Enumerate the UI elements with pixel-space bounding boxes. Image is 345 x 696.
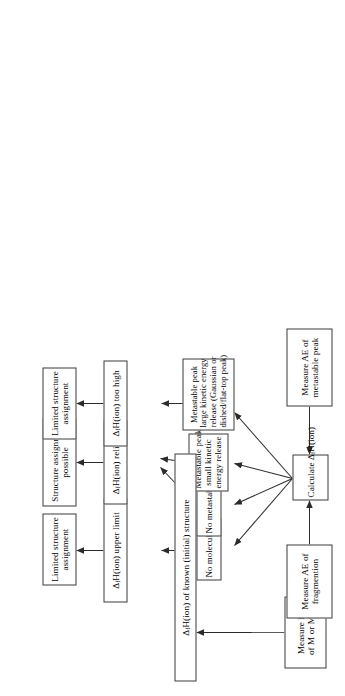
box-limited-assignment-a-line-1: Limited structure: [49, 516, 59, 582]
box-measure-ae-metastable-peak-line-2: metastable peak: [309, 331, 319, 403]
box-limited-assignment-a-line-2: assignment: [59, 516, 69, 582]
box-limited-assignment-b-line-1: Limited structure: [49, 370, 59, 436]
box-metastable-large-ke: Metastable peak large kinetic energy rel…: [182, 358, 234, 430]
box-limited-assignment-b-line-2: assignment: [59, 370, 69, 436]
diagram-rotation-wrapper: Measure IE of M or M+• Measure AE of fra…: [0, 0, 345, 696]
box-metastable-small-ke-line-3: energy release: [213, 436, 223, 488]
box-dfh-upper-limit-line-1: ΔfH(ion) upper limit: [110, 501, 120, 599]
flowchart-canvas: Measure IE of M or M+• Measure AE of fra…: [0, 0, 345, 696]
box-measure-ae-fragmention-line-1: Measure AE of: [299, 547, 309, 615]
box-measure-ae-metastable-peak: Measure AE of metastable peak: [286, 328, 332, 406]
box-known-initial-structure-line-1: ΔfH(ion) of known (initial) structure: [180, 456, 190, 678]
box-measure-ae-fragmention-line-2: fragmention: [309, 547, 319, 615]
box-metastable-large-ke-line-4: dished/flat-top peak): [218, 361, 228, 427]
box-dfh-upper-limit: ΔfH(ion) upper limit: [103, 498, 127, 602]
box-calculate-dfh-ion: Calculate ΔfH(ion): [292, 454, 328, 500]
box-known-initial-structure: ΔfH(ion) of known (initial) structure: [174, 453, 196, 681]
box-metastable-small-ke-line-2: small kinetic: [203, 436, 213, 488]
box-measure-ae-fragmention: Measure AE of fragmention: [286, 544, 332, 618]
box-metastable-large-ke-line-3: release (Gaussian or: [208, 361, 218, 427]
box-calculate-dfh-ion-line-1: Calculate ΔfH(ion): [305, 457, 315, 497]
wire-fan-out: [234, 412, 292, 545]
box-limited-assignment-a: Limited structure assignment: [42, 513, 76, 585]
box-dfh-too-high: ΔfH(ion) too high: [103, 360, 127, 446]
box-limited-assignment-b: Limited structure assignment: [42, 367, 76, 439]
box-measure-ae-metastable-peak-line-1: Measure AE of: [299, 331, 309, 403]
box-dfh-too-high-line-1: ΔfH(ion) too high: [110, 363, 120, 443]
